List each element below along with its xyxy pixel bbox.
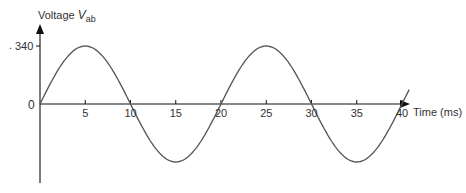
x-tick-label: 10 (124, 107, 136, 119)
voltage-chart (0, 0, 466, 193)
x-tick-label: 35 (351, 107, 363, 119)
y-axis-arrow-icon (36, 24, 44, 34)
x-tick-label: 15 (170, 107, 182, 119)
x-tick-label: 20 (215, 107, 227, 119)
x-axis-ticks (85, 100, 402, 104)
y-axis-label: Voltage Vab (38, 8, 96, 24)
y-tick-dot: . (9, 39, 12, 51)
y-axis-label-var: V (78, 8, 86, 22)
x-tick-label: 25 (260, 107, 272, 119)
y-axis-label-sub: ab (86, 14, 96, 24)
x-axis-label: Time (ms) (413, 106, 462, 118)
y-axis-label-text: Voltage (38, 9, 78, 21)
x-tick-label: 40 (396, 107, 408, 119)
x-tick-label: 30 (305, 107, 317, 119)
y-tick-label-340: 340 (15, 40, 33, 52)
x-tick-label: 5 (82, 107, 88, 119)
origin-label: 0 (28, 98, 35, 112)
